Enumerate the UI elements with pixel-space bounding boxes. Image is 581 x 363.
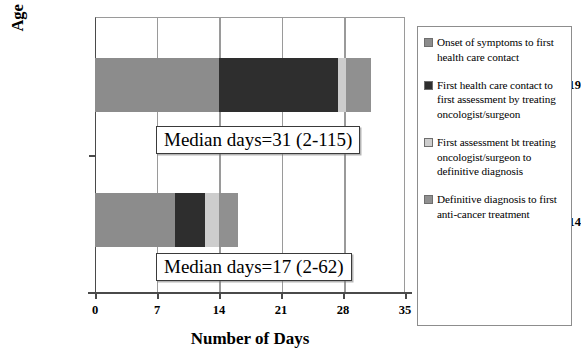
bar-row-15-19 (95, 58, 371, 112)
bar-segment-4 (346, 58, 372, 112)
bar-segment-1 (95, 58, 219, 112)
legend-label: First health care contact to first asses… (437, 78, 566, 122)
x-axis-line (88, 292, 412, 294)
bar-row-0-14 (95, 193, 238, 247)
bar-segment-3 (338, 58, 346, 112)
legend-item-3[interactable]: First assessment bt treating oncologist/… (424, 135, 566, 179)
x-tickmark-0 (95, 293, 97, 299)
legend-item-4[interactable]: Definitive diagnosis to first anti-cance… (424, 192, 566, 222)
x-tickmark-14 (219, 293, 221, 299)
legend-swatch-icon (424, 38, 433, 47)
legend-swatch-icon (424, 81, 433, 90)
y-axis-title: Age in years (8, 0, 36, 88)
bar-segment-3 (205, 193, 219, 247)
legend-swatch-icon (424, 138, 433, 147)
x-tick-label-14: 14 (199, 303, 239, 318)
bar-segment-2 (219, 58, 338, 112)
x-tickmark-7 (157, 293, 159, 299)
legend-item-1[interactable]: Onset of symptoms to first health care c… (424, 35, 566, 65)
legend-item-2[interactable]: First health care contact to first asses… (424, 78, 566, 122)
x-tick-label-28: 28 (323, 303, 363, 318)
median-annotation-15-19: Median days=31 (2-115) (156, 126, 360, 154)
legend-label: Onset of symptoms to first health care c… (437, 35, 566, 65)
bar-segment-1 (95, 193, 175, 247)
bar-segment-4 (219, 193, 238, 247)
x-tick-label-21: 21 (261, 303, 301, 318)
legend-label: Definitive diagnosis to first anti-cance… (437, 192, 566, 222)
x-tickmark-21 (281, 293, 283, 299)
x-tick-label-0: 0 (75, 303, 115, 318)
x-axis-title: Number of Days (95, 329, 405, 349)
legend-swatch-icon (424, 195, 433, 204)
x-tickmark-28 (343, 293, 345, 299)
legend: Onset of symptoms to first health care c… (417, 26, 572, 326)
legend-label: First assessment bt treating oncologist/… (437, 135, 566, 179)
x-tickmark-35 (405, 293, 407, 299)
bar-segment-2 (175, 193, 205, 247)
x-tick-label-7: 7 (137, 303, 177, 318)
median-annotation-0-14: Median days=17 (2-62) (156, 253, 352, 281)
